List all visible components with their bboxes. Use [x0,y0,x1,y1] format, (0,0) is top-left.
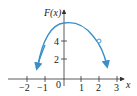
x-tick-label: −2 [19,82,30,93]
open-circle-marker [97,39,101,43]
function-curve-left-arrow [37,45,45,68]
function-curve [38,23,107,66]
x-tick-label: 1 [79,82,84,93]
x-tick-label: 3 [114,82,119,93]
y-axis-label: F(x) [43,7,62,19]
x-axis-label: x [125,79,131,90]
y-tick-label: 2 [54,54,59,65]
function-graph: −2 −1 0 1 2 3 x 2 4 F(x) [0,0,137,96]
x-tick-label: 0 [56,79,61,90]
x-tick-label: 2 [96,82,101,93]
y-tick-label: 4 [54,36,59,47]
x-tick-label: −1 [37,82,48,93]
